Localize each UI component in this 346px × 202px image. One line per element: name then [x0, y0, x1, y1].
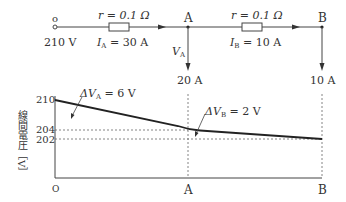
y-axis-label: 線間電圧［V］: [15, 110, 27, 177]
current-2-label: IB = 10 A: [230, 37, 281, 52]
source-voltage: 210 V: [44, 37, 76, 49]
current-1-sub: A: [101, 42, 106, 50]
load-a-voltage-label: VA: [172, 46, 185, 61]
resistor-2: [242, 23, 262, 31]
xtick-b: B: [318, 184, 327, 196]
node-b-label: B: [318, 12, 327, 24]
voltage-curve: [55, 100, 322, 139]
drop-a-sub: A: [96, 93, 101, 101]
node-a-label: A: [184, 12, 193, 24]
drop-b-symbol: ΔV: [205, 105, 221, 118]
current-1-label: IA = 30 A: [97, 37, 148, 52]
origin-label: O: [52, 183, 59, 195]
current-arrow-2-icon: [292, 25, 300, 30]
drop-a-value: = 6 V: [104, 87, 135, 100]
ytick-202: 202: [36, 134, 55, 146]
load-a-current: 20 A: [177, 75, 202, 87]
drop-b-annotation: ΔVB = 2 V: [205, 106, 261, 121]
load-a-voltage-symbol: V: [172, 45, 180, 58]
xtick-a: A: [184, 184, 193, 196]
drop-b-sub: B: [221, 111, 226, 119]
load-a-arrow-icon: [186, 63, 191, 71]
resistor-1: [109, 23, 129, 31]
current-arrow-1-icon: [158, 25, 166, 30]
load-b-current: 10 A: [310, 75, 335, 87]
drop-b-value: = 2 V: [230, 105, 261, 118]
drop-a-symbol: ΔV: [80, 87, 96, 100]
source-terminal-icon: [53, 25, 57, 29]
ytick-210: 210: [36, 94, 55, 106]
load-b-arrow-icon: [320, 63, 325, 71]
current-2-sub: B: [234, 42, 239, 50]
load-a-voltage-sub: A: [180, 51, 185, 59]
drop-a-annotation: ΔVA = 6 V: [80, 88, 136, 103]
resistance-1-label: r = 0.1 Ω: [98, 10, 150, 22]
current-2-value: = 10 A: [243, 36, 281, 49]
source-label: o: [52, 13, 58, 25]
resistance-2-label: r = 0.1 Ω: [231, 10, 283, 22]
current-1-value: = 30 A: [110, 36, 148, 49]
